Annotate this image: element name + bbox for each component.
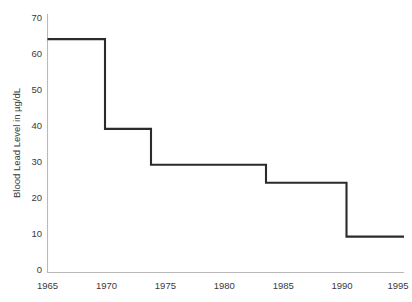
y-tick-label: 40 bbox=[31, 120, 42, 131]
x-tick-label: 1970 bbox=[96, 280, 117, 291]
x-tick-label: 1995 bbox=[387, 280, 408, 291]
blood-lead-level-step-chart: 70 60 50 40 30 20 10 0 1965 1970 1975 19… bbox=[0, 0, 412, 302]
x-tick-label: 1980 bbox=[214, 280, 235, 291]
x-tick-label: 1965 bbox=[37, 280, 58, 291]
x-tick-label: 1985 bbox=[273, 280, 294, 291]
y-tick-label: 60 bbox=[31, 48, 42, 59]
y-tick-label: 70 bbox=[31, 12, 42, 23]
x-tick-label: 1990 bbox=[332, 280, 353, 291]
y-tick-label: 30 bbox=[31, 156, 42, 167]
y-axis-title: Blood Lead Level in µg/dL bbox=[11, 88, 22, 198]
y-tick-label: 10 bbox=[31, 228, 42, 239]
chart-page: 70 60 50 40 30 20 10 0 1965 1970 1975 19… bbox=[0, 0, 412, 302]
x-tick-label: 1975 bbox=[155, 280, 176, 291]
y-tick-label: 0 bbox=[37, 264, 42, 275]
chart-background bbox=[0, 0, 412, 302]
y-tick-label: 50 bbox=[31, 84, 42, 95]
y-tick-label: 20 bbox=[31, 192, 42, 203]
